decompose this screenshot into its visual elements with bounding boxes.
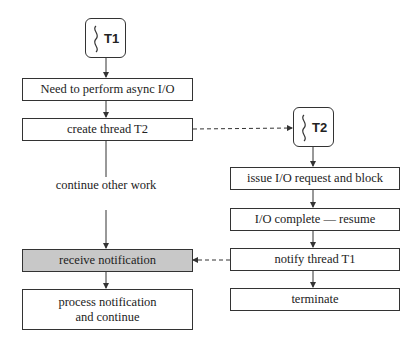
- step-text: receive notification: [59, 253, 156, 268]
- step-text: I/O complete — resume: [255, 212, 375, 227]
- step-text: issue I/O request and block: [247, 171, 383, 186]
- step-terminate: terminate: [230, 288, 400, 311]
- step-text: create thread T2: [67, 122, 148, 137]
- step-text: terminate: [291, 292, 338, 307]
- step-text: process notification and continue: [53, 295, 162, 325]
- step-create-thread-t2: create thread T2: [22, 118, 193, 141]
- thread-t2-label: T2: [312, 120, 327, 135]
- step-process-notification: process notification and continue: [22, 289, 193, 330]
- step-text: Need to perform async I/O: [41, 82, 175, 97]
- step-text: notify thread T1: [275, 252, 356, 267]
- thread-t1-node: T1: [85, 18, 126, 58]
- thread-t2-node: T2: [293, 107, 334, 147]
- thread-t1-label: T1: [104, 31, 119, 46]
- edge-label-continue-other-work: continue other work: [52, 177, 160, 194]
- thread-squiggle-icon: [90, 25, 102, 53]
- step-need-async-io: Need to perform async I/O: [22, 78, 193, 101]
- step-io-complete: I/O complete — resume: [230, 208, 400, 231]
- thread-squiggle-icon: [298, 114, 310, 142]
- step-issue-io-request: issue I/O request and block: [230, 167, 400, 190]
- step-receive-notification: receive notification: [22, 249, 193, 272]
- step-notify-thread-t1: notify thread T1: [230, 248, 400, 271]
